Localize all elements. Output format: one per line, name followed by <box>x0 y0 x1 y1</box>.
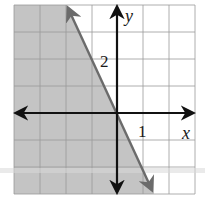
shaded-region <box>14 5 154 194</box>
inequality-graph: y x 2 1 <box>0 0 205 208</box>
y-axis-label: y <box>123 6 133 26</box>
x-axis-label: x <box>181 123 190 143</box>
y-tick-label-2: 2 <box>100 52 109 71</box>
x-tick-label-1: 1 <box>138 122 147 141</box>
scan-artifact-band <box>0 168 205 173</box>
